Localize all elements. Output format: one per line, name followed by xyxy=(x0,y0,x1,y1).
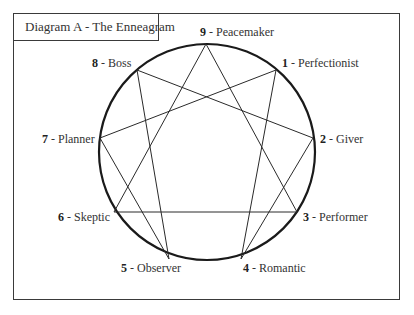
label-3-performer: 3 - Performer xyxy=(303,210,368,224)
enneagram-diagram xyxy=(0,0,414,315)
label-7-planner: 7 - Planner xyxy=(42,132,95,146)
label-1-perfectionist: 1 - Perfectionist xyxy=(282,56,359,70)
label-4-romantic: 4 - Romantic xyxy=(243,261,306,275)
label-2-giver: 2 - Giver xyxy=(320,132,363,146)
diagram-title: Diagram A - The Enneagram xyxy=(13,13,159,41)
label-6-skeptic: 6 - Skeptic xyxy=(58,210,110,224)
enneagram-circle xyxy=(99,44,315,260)
label-8-boss: 8 - Boss xyxy=(92,56,131,70)
enneagram-lines xyxy=(100,44,313,259)
label-9-peacemaker: 9 - Peacemaker xyxy=(200,25,274,39)
label-5-observer: 5 - Observer xyxy=(121,261,181,275)
